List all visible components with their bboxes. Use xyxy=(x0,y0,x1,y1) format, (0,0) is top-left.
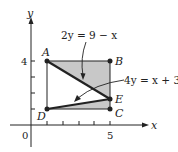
x-axis-arrow-icon xyxy=(142,123,149,128)
point-C xyxy=(108,107,113,112)
y-axis-ticks xyxy=(31,61,35,109)
label-E: E xyxy=(114,93,123,106)
label-A: A xyxy=(41,46,50,59)
rectangle-region-diagram: y x 0 5 4 A B C D E 2y = 9 − x 4y = x + … xyxy=(0,0,178,152)
y-tick-label-4: 4 xyxy=(21,56,27,67)
origin-label: 0 xyxy=(22,130,28,141)
x-axis-ticks xyxy=(47,121,110,125)
point-B xyxy=(108,59,113,64)
x-axis-label: x xyxy=(151,119,158,132)
label-C: C xyxy=(115,107,124,120)
point-E xyxy=(108,97,113,102)
equation-line-DE: 4y = x + 3 xyxy=(124,74,178,86)
label-D: D xyxy=(36,110,46,123)
label-B: B xyxy=(114,55,123,68)
x-tick-label-5: 5 xyxy=(107,130,113,141)
point-A xyxy=(45,59,50,64)
y-axis-label: y xyxy=(26,7,34,20)
equation-line-AE: 2y = 9 − x xyxy=(61,29,117,41)
